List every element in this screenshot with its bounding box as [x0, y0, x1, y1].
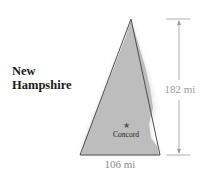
- city-label: Concord: [113, 130, 139, 139]
- arrow-down-icon: [177, 149, 181, 154]
- height-label: 182 mi: [165, 83, 196, 95]
- star-icon: ★: [123, 121, 130, 130]
- triangle-diagram: 182 mi 106 mi ★ Concord: [0, 0, 206, 175]
- base-label: 106 mi: [105, 158, 136, 170]
- arrow-up-icon: [177, 20, 181, 25]
